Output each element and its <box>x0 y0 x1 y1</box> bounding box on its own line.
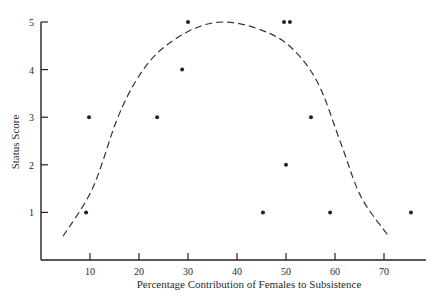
data-point <box>84 210 88 214</box>
data-point <box>284 163 288 167</box>
data-point <box>282 20 286 24</box>
dashed-curve <box>63 22 388 236</box>
y-tick-label: 2 <box>29 160 34 171</box>
y-tick-label: 5 <box>29 17 34 28</box>
x-axis-label: Percentage Contribution of Females to Su… <box>137 278 362 290</box>
axes: 1234510203040506070 <box>29 17 426 277</box>
y-axis-label: Status Score <box>9 115 21 170</box>
data-point <box>328 210 332 214</box>
x-tick-label: 10 <box>85 266 95 277</box>
x-tick-label: 40 <box>232 266 242 277</box>
data-point <box>261 210 265 214</box>
fitted-curve <box>63 22 388 236</box>
y-tick-label: 4 <box>29 65 34 76</box>
x-tick-label: 70 <box>379 266 389 277</box>
data-point <box>155 115 159 119</box>
data-point <box>186 20 190 24</box>
data-point <box>309 115 313 119</box>
y-tick-label: 1 <box>29 207 34 218</box>
x-tick-label: 50 <box>281 266 291 277</box>
x-tick-label: 20 <box>134 266 144 277</box>
data-point <box>180 68 184 72</box>
data-point <box>288 20 292 24</box>
y-tick-label: 3 <box>29 112 34 123</box>
data-point <box>87 115 91 119</box>
x-tick-label: 30 <box>183 266 193 277</box>
x-tick-label: 60 <box>330 266 340 277</box>
scatter-chart: 1234510203040506070 Percentage Contribut… <box>0 0 438 298</box>
data-points <box>84 20 413 214</box>
data-point <box>409 210 413 214</box>
